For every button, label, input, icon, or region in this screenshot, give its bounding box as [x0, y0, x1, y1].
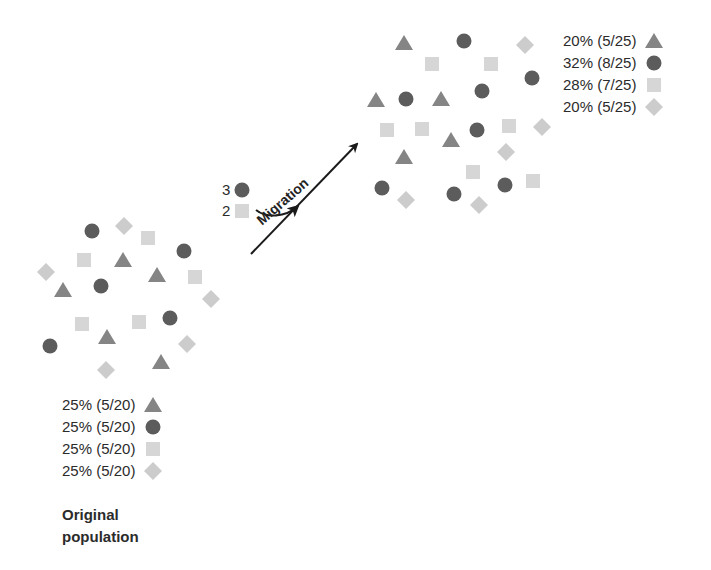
circle-icon: [94, 279, 109, 294]
triangle-icon: [432, 91, 450, 106]
legend-row-circle: 32% (8/25): [563, 52, 664, 74]
migrant-circle-count: 3: [222, 181, 230, 199]
legend-row-circle: 25% (5/20): [62, 416, 163, 438]
legend-label: 32% (8/25): [563, 52, 636, 74]
square-icon: [75, 317, 89, 331]
square-icon: [141, 231, 155, 245]
diamond-icon: [397, 191, 415, 209]
square-icon: [502, 119, 516, 133]
original-population-caption: Original population: [62, 504, 139, 548]
diamond-icon: [202, 290, 220, 308]
legend-label: 25% (5/20): [62, 460, 135, 482]
original-population-legend: 25% (5/20) 25% (5/20) 25% (5/20) 25% (5/…: [62, 394, 163, 482]
square-icon: [380, 123, 394, 137]
circle-icon: [457, 34, 472, 49]
diamond-icon: [644, 97, 664, 117]
square-icon: [484, 57, 498, 71]
legend-label: 28% (7/25): [563, 74, 636, 96]
square-icon: [143, 439, 163, 459]
legend-row-diamond: 25% (5/20): [62, 460, 163, 482]
diamond-icon: [115, 217, 133, 235]
diamond-icon: [178, 335, 196, 353]
diamond-icon: [516, 36, 534, 54]
legend-row-diamond: 20% (5/25): [563, 96, 664, 118]
circle-icon: [143, 417, 163, 437]
circle-icon: [163, 311, 178, 326]
square-icon: [188, 270, 202, 284]
triangle-icon: [644, 31, 664, 51]
diamond-icon: [143, 461, 163, 481]
original-population-scatter: [37, 217, 220, 379]
circle-icon: [235, 183, 250, 198]
square-icon: [415, 122, 429, 136]
diamond-icon: [97, 361, 115, 379]
new-population-scatter: [367, 34, 551, 215]
square-icon: [77, 253, 91, 267]
circle-icon: [498, 178, 513, 193]
triangle-icon: [114, 252, 132, 267]
triangle-icon: [98, 329, 116, 344]
circle-icon: [43, 339, 58, 354]
circle-icon: [525, 71, 540, 86]
circle-icon: [470, 123, 485, 138]
diamond-icon: [37, 263, 55, 281]
legend-row-triangle: 25% (5/20): [62, 394, 163, 416]
square-icon: [526, 174, 540, 188]
square-icon: [425, 57, 439, 71]
migration-arrow: [251, 144, 357, 254]
circle-icon: [85, 224, 100, 239]
square-icon: [644, 75, 664, 95]
diamond-icon: [533, 118, 551, 136]
legend-label: 25% (5/20): [62, 438, 135, 460]
diamond-icon: [497, 143, 515, 161]
legend-row-square: 25% (5/20): [62, 438, 163, 460]
square-icon: [132, 315, 146, 329]
circle-icon: [177, 244, 192, 259]
triangle-icon: [143, 395, 163, 415]
migrant-shapes: [235, 183, 250, 219]
triangle-icon: [54, 282, 72, 297]
legend-row-triangle: 20% (5/25): [563, 30, 664, 52]
circle-icon: [399, 92, 414, 107]
legend-label: 20% (5/25): [563, 96, 636, 118]
triangle-icon: [367, 92, 385, 107]
triangle-icon: [442, 132, 460, 147]
legend-label: 20% (5/25): [563, 30, 636, 52]
caption-line-2: population: [62, 526, 139, 548]
circle-icon: [644, 53, 664, 73]
circle-icon: [475, 84, 490, 99]
triangle-icon: [395, 149, 413, 164]
circle-icon: [375, 181, 390, 196]
legend-label: 25% (5/20): [62, 416, 135, 438]
triangle-icon: [148, 267, 166, 282]
square-icon: [466, 165, 480, 179]
diamond-icon: [470, 196, 488, 214]
caption-line-1: Original: [62, 504, 139, 526]
new-population-legend: 20% (5/25) 32% (8/25) 28% (7/25) 20% (5/…: [563, 30, 664, 118]
circle-icon: [447, 187, 462, 202]
legend-row-square: 28% (7/25): [563, 74, 664, 96]
square-icon: [235, 204, 249, 218]
legend-label: 25% (5/20): [62, 394, 135, 416]
triangle-icon: [395, 35, 413, 50]
triangle-icon: [152, 354, 170, 369]
migrant-square-count: 2: [222, 202, 230, 220]
